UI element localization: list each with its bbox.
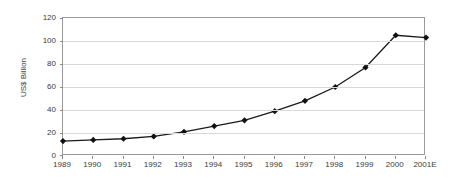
- x-axis-tickmark: [304, 156, 305, 159]
- line-chart: US$ Billion 020406080100120 198919901991…: [0, 0, 463, 195]
- series-markers: [60, 32, 429, 144]
- x-axis-tickmark: [395, 156, 396, 159]
- y-axis-tickmark: [60, 64, 63, 65]
- gridline: [63, 41, 424, 42]
- data-point-marker: [120, 136, 126, 142]
- data-point-marker: [90, 137, 96, 143]
- y-axis-tickmark: [60, 41, 63, 42]
- x-axis-tickmark: [153, 156, 154, 159]
- y-axis-tickmark: [60, 87, 63, 88]
- y-axis-tickmark: [60, 133, 63, 134]
- x-axis-tick-label: 2001E: [402, 160, 448, 170]
- x-axis-tickmark: [425, 156, 426, 159]
- data-point-marker: [60, 138, 66, 144]
- y-axis-tick-label: 40: [26, 105, 56, 114]
- data-point-marker: [241, 117, 247, 123]
- y-axis-tickmark: [60, 18, 63, 19]
- data-point-marker: [423, 34, 429, 40]
- x-axis-tickmark: [365, 156, 366, 159]
- gridline: [63, 64, 424, 65]
- x-axis-tickmark: [213, 156, 214, 159]
- y-axis-tick-label: 100: [26, 36, 56, 45]
- data-point-marker: [151, 133, 157, 139]
- x-axis-tickmark: [244, 156, 245, 159]
- gridline: [63, 87, 424, 88]
- x-axis-tickmark: [274, 156, 275, 159]
- gridline: [63, 133, 424, 134]
- x-axis-tickmark: [123, 156, 124, 159]
- series-line: [63, 35, 426, 141]
- plot-area: [62, 17, 425, 155]
- x-axis-tickmark: [92, 156, 93, 159]
- gridline: [63, 110, 424, 111]
- x-axis-tickmark: [183, 156, 184, 159]
- x-axis-tickmark: [62, 156, 63, 159]
- y-axis-tick-label: 80: [26, 59, 56, 68]
- data-point-marker: [272, 108, 278, 114]
- x-axis-tick-labels: 1989199019911992199319941995199619971998…: [62, 160, 425, 174]
- x-axis-tickmark: [334, 156, 335, 159]
- y-axis-tickmark: [60, 110, 63, 111]
- y-axis-tick-label: 60: [26, 82, 56, 91]
- y-axis-tick-label: 120: [26, 13, 56, 22]
- y-axis-tick-label: 0: [26, 151, 56, 160]
- data-point-marker: [302, 98, 308, 104]
- data-point-marker: [181, 129, 187, 135]
- data-point-marker: [211, 123, 217, 129]
- y-axis-tick-label: 20: [26, 128, 56, 137]
- y-axis-tick-labels: 020406080100120: [26, 12, 56, 159]
